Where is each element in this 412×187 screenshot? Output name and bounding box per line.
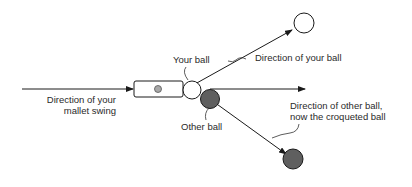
label-other-ball: Other ball — [181, 121, 222, 132]
label-mallet-swing-line1: Direction of your — [20, 94, 116, 105]
your-ball-final-position — [294, 13, 314, 33]
label-direction-other-ball-line1: Direction of other ball, — [290, 100, 386, 111]
label-direction-your-ball: Direction of your ball — [255, 52, 342, 63]
label-mallet-swing: Direction of your mallet swing — [20, 94, 116, 116]
other-ball-final-position — [283, 149, 303, 169]
leader-your-ball — [184, 67, 188, 80]
other-ball-direction-arrow — [214, 102, 286, 154]
your-ball — [183, 81, 201, 99]
mallet-face-dot — [155, 86, 162, 93]
other-ball — [201, 90, 220, 109]
croquet-shot-diagram: Direction of your mallet swing Your ball… — [0, 0, 412, 187]
label-direction-other-ball: Direction of other ball, now the croquet… — [290, 100, 386, 122]
label-your-ball: Your ball — [173, 54, 210, 65]
label-direction-other-ball-line2: now the croqueted ball — [290, 111, 386, 122]
label-mallet-swing-line2: mallet swing — [20, 105, 116, 116]
leader-other-ball — [205, 108, 209, 120]
leader-direction-other-ball — [272, 124, 299, 138]
